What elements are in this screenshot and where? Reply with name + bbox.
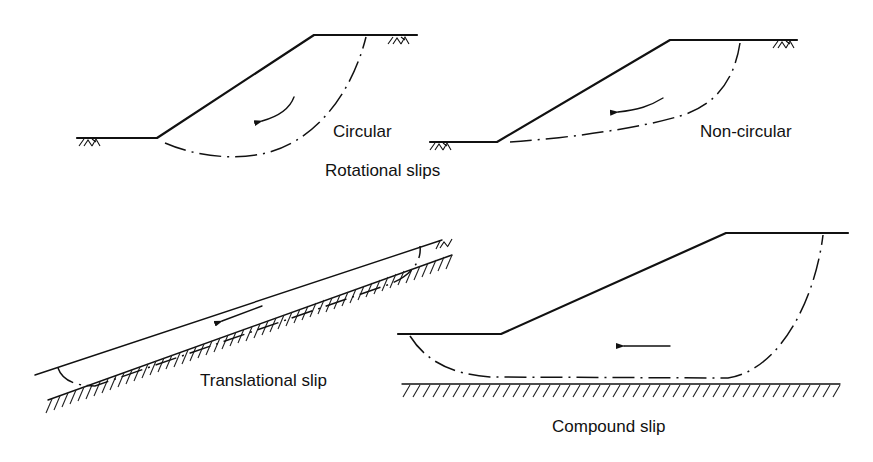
grass-symbol-right-icon (388, 37, 409, 44)
grass-symbol-right-icon (773, 41, 794, 48)
ground-profile (398, 233, 848, 334)
group-label-rotational: Rotational slips (325, 161, 440, 180)
label-non-circular: Non-circular (700, 122, 792, 141)
panel-non-circular: Non-circular (430, 40, 797, 150)
panel-circular: Circular Rotational slips (77, 35, 440, 180)
ground-surface (35, 240, 442, 375)
slope-failure-diagram: Circular Rotational slips Non-circular T… (0, 0, 873, 462)
panel-compound: Compound slip (398, 233, 848, 436)
grass-symbol-left-icon (430, 143, 451, 150)
movement-arrow-icon (262, 97, 294, 121)
movement-arrow-icon (222, 306, 262, 321)
hatching (403, 385, 840, 397)
label-translational: Translational slip (200, 371, 327, 390)
slip-surface-translational (58, 246, 420, 386)
label-circular: Circular (333, 122, 392, 141)
movement-arrow-icon (618, 98, 663, 112)
slip-surface-compound (410, 235, 823, 378)
label-compound: Compound slip (552, 417, 665, 436)
panel-translational: Translational slip (35, 239, 452, 413)
grass-symbol-left-icon (79, 139, 100, 146)
